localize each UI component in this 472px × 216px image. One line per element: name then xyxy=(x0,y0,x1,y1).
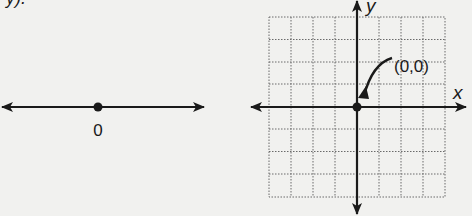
coordinate-plane: x y (0,0) xyxy=(251,0,466,214)
origin-point xyxy=(94,103,103,112)
origin-point xyxy=(353,103,362,112)
x-axis-label: x xyxy=(452,82,464,103)
y-axis-label: y xyxy=(364,0,377,16)
diagram-canvas: y). 0 x y (0,0) xyxy=(0,0,472,216)
origin-annotation: (0,0) xyxy=(394,57,429,76)
cropped-text-fragment: y). xyxy=(4,0,26,8)
number-line: 0 xyxy=(2,103,204,141)
annotation-arrow-icon xyxy=(364,58,392,96)
origin-label: 0 xyxy=(93,121,102,140)
